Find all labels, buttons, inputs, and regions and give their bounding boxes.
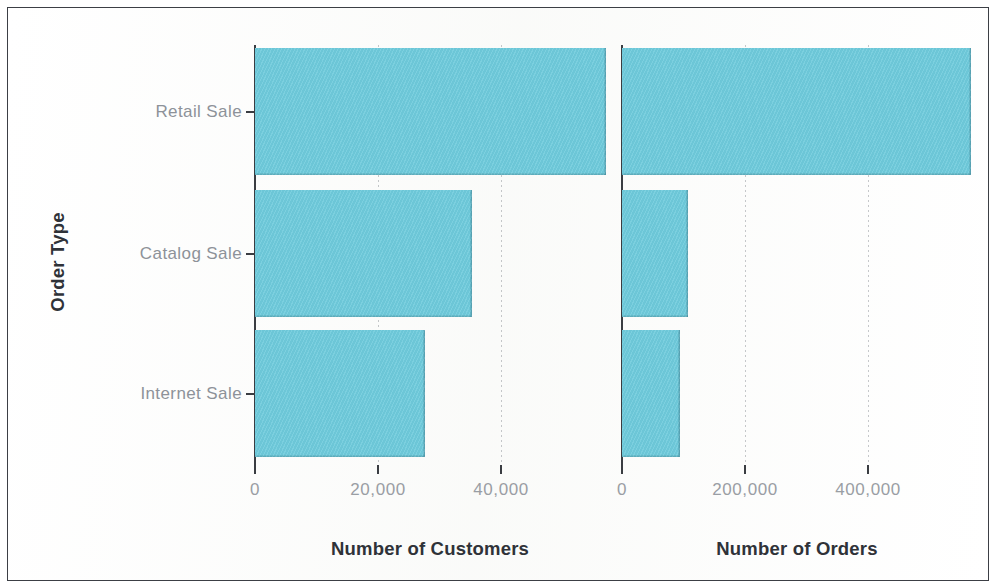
bar-catalog-sale-customers[interactable] xyxy=(255,190,472,317)
x-tick-left-0 xyxy=(254,465,256,474)
x-tick-left-40000 xyxy=(500,465,502,474)
x-tick-label-right-0: 0 xyxy=(617,480,627,500)
x-axis-title-number-of-orders: Number of Orders xyxy=(716,538,878,560)
panel-number-of-orders: 0 200,000 400,000 Number of Orders xyxy=(622,40,974,465)
bar-chart: Order Type Retail Sale Catalog Sale Inte… xyxy=(0,0,996,588)
x-tick-label-right-200000: 200,000 xyxy=(712,480,778,500)
x-tick-right-200000 xyxy=(744,465,746,474)
y-axis-label-catalog-sale: Catalog Sale xyxy=(140,244,242,264)
y-tick-internet-sale xyxy=(246,393,255,395)
bar-catalog-sale-orders[interactable] xyxy=(622,190,688,317)
panel-number-of-customers: Retail Sale Catalog Sale Internet Sale 0… xyxy=(255,40,607,465)
x-tick-left-20000 xyxy=(377,465,379,474)
bar-internet-sale-customers[interactable] xyxy=(255,330,425,457)
y-tick-catalog-sale xyxy=(246,253,255,255)
y-axis-title: Order Type xyxy=(47,212,69,311)
x-tick-label-left-0: 0 xyxy=(250,480,260,500)
y-axis-label-retail-sale: Retail Sale xyxy=(155,102,242,122)
y-axis-label-internet-sale: Internet Sale xyxy=(140,384,242,404)
x-tick-right-0 xyxy=(621,465,623,474)
x-axis-title-number-of-customers: Number of Customers xyxy=(331,538,529,560)
y-tick-retail-sale xyxy=(246,111,255,113)
x-tick-right-400000 xyxy=(867,465,869,474)
bar-retail-sale-orders[interactable] xyxy=(622,48,971,175)
x-tick-label-left-40000: 40,000 xyxy=(473,480,529,500)
bar-retail-sale-customers[interactable] xyxy=(255,48,606,175)
bar-internet-sale-orders[interactable] xyxy=(622,330,680,457)
x-tick-label-right-400000: 400,000 xyxy=(835,480,901,500)
x-tick-label-left-20000: 20,000 xyxy=(350,480,406,500)
